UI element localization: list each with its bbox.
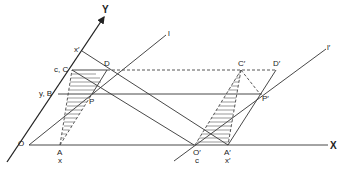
label-x-prime-under-A-prime: x′	[225, 156, 231, 165]
label-P: P	[89, 97, 94, 106]
label-C-prime: C′	[238, 59, 246, 68]
label-B: y, B	[39, 89, 52, 98]
hatching-left	[62, 74, 101, 138]
line-C-to-O-prime	[72, 70, 194, 145]
construction-diagram: Y X l l′ O A x y, B c, C D P x′ O′ c A′ …	[0, 0, 341, 176]
label-D: D	[104, 59, 110, 68]
label-D-prime: D′	[273, 59, 281, 68]
label-Y: Y	[102, 4, 109, 15]
label-x: x	[58, 156, 62, 165]
label-X: X	[330, 140, 337, 151]
dashed-C-prime-to-P-prime	[241, 70, 260, 94]
label-x-prime: x′	[74, 45, 80, 54]
label-l-prime: l′	[327, 43, 331, 52]
label-C: c, C	[54, 65, 68, 74]
line-D-prime-to-A-prime	[228, 70, 276, 145]
label-P-prime: P′	[262, 94, 269, 103]
dashed-A-to-P	[60, 94, 92, 145]
label-c: c	[195, 156, 199, 165]
label-l: l	[168, 29, 170, 38]
label-O: O	[18, 139, 24, 148]
line-l-prime	[174, 49, 326, 161]
